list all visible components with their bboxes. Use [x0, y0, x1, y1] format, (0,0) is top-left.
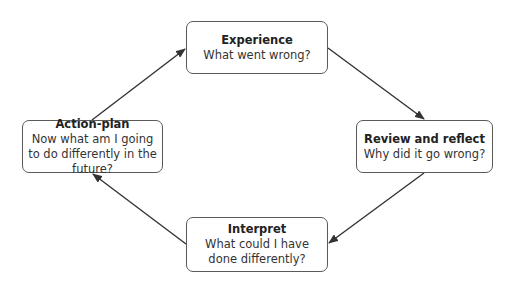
node-text: What went wrong?: [203, 48, 310, 63]
node-action-plan: Action-plan Now what am I going to do di…: [22, 120, 163, 173]
node-review-and-reflect: Review and reflect Why did it go wrong?: [356, 120, 493, 173]
node-title: Review and reflect: [364, 132, 485, 147]
node-experience: Experience What went wrong?: [186, 21, 328, 74]
node-title: Action-plan: [55, 117, 129, 132]
arrow-review-to-interpret: [329, 173, 424, 243]
node-text: Now what am I going to do differently in…: [27, 132, 159, 177]
node-interpret: Interpret What could I have done differe…: [186, 217, 328, 272]
node-text: What could I have done differently?: [192, 237, 322, 267]
node-title: Experience: [221, 33, 293, 48]
arrow-action-to-experience: [92, 49, 185, 120]
node-text: Why did it go wrong?: [364, 147, 486, 162]
arrow-interpret-to-action: [93, 174, 186, 244]
arrow-experience-to-review: [328, 48, 424, 119]
node-title: Interpret: [228, 222, 287, 237]
